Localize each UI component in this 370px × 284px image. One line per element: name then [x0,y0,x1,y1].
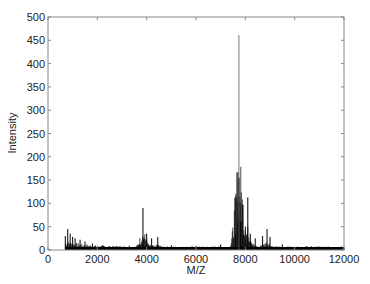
x-tick-label: 10000 [279,253,310,265]
x-axis-label: M/Z [187,264,206,276]
y-axis-label: Intensity [6,112,18,153]
y-tick-label: 200 [27,151,45,163]
y-tick-label: 500 [27,11,45,23]
y-tick-label: 450 [27,34,45,46]
spectrum-series [65,35,344,250]
y-tick-label: 100 [27,197,45,209]
y-axis-ticks: 050100150200250300350400450500 [27,11,344,256]
y-tick-label: 0 [39,244,45,256]
y-tick-label: 250 [27,128,45,140]
x-tick-label: 8000 [233,253,257,265]
y-tick-label: 150 [27,174,45,186]
x-tick-label: 12000 [329,253,360,265]
mass-spectrum-chart: 020004000600080001000012000 050100150200… [0,0,370,284]
axes-frame [48,17,344,250]
x-axis-ticks: 020004000600080001000012000 [45,17,359,265]
y-tick-label: 300 [27,104,45,116]
y-tick-label: 350 [27,81,45,93]
x-tick-label: 2000 [85,253,109,265]
y-tick-label: 400 [27,58,45,70]
x-tick-label: 0 [45,253,51,265]
x-tick-label: 4000 [134,253,158,265]
y-tick-label: 50 [33,221,45,233]
